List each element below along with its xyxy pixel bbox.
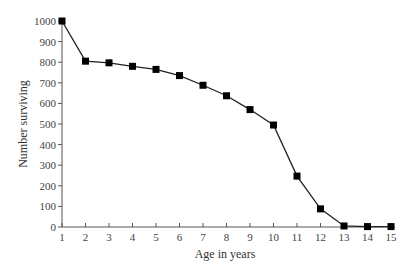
- y-tick-label: 1000: [34, 15, 57, 27]
- x-tick-label: 9: [247, 231, 253, 243]
- y-axis-label: Number surviving: [16, 80, 30, 168]
- y-tick-label: 200: [40, 180, 57, 192]
- data-point-marker: [317, 205, 324, 212]
- x-tick-label: 1: [59, 231, 65, 243]
- x-tick-label: 7: [200, 231, 206, 243]
- x-tick-label: 11: [292, 231, 303, 243]
- y-tick-label: 400: [40, 139, 57, 151]
- x-tick-label: 3: [106, 231, 112, 243]
- x-tick-label: 14: [362, 231, 374, 243]
- y-tick-label: 800: [40, 56, 57, 68]
- x-tick-label: 5: [153, 231, 159, 243]
- data-point-marker: [82, 58, 89, 65]
- data-point-marker: [364, 223, 371, 230]
- survivorship-line-chart: 01002003004005006007008009001000 1234567…: [0, 0, 407, 271]
- x-tick-label: 13: [339, 231, 351, 243]
- y-tick-label: 900: [40, 36, 57, 48]
- y-tick-label: 700: [40, 77, 57, 89]
- data-point-marker: [59, 18, 66, 25]
- data-point-marker: [129, 63, 136, 70]
- data-point-marker: [341, 222, 348, 229]
- x-tick-label: 12: [315, 231, 326, 243]
- data-point-marker: [270, 122, 277, 129]
- y-tick-label: 500: [40, 118, 57, 130]
- x-tick-label: 10: [268, 231, 280, 243]
- data-point-marker: [247, 106, 254, 113]
- x-tick-label: 4: [130, 231, 136, 243]
- x-axis-label: Age in years: [195, 247, 256, 261]
- y-tick-label: 600: [40, 97, 57, 109]
- data-point-marker: [176, 72, 183, 79]
- y-tick-label: 0: [51, 221, 57, 233]
- x-tick-label: 6: [177, 231, 183, 243]
- y-tick-label: 100: [40, 200, 57, 212]
- data-series-line: [59, 18, 395, 231]
- x-tick-label: 8: [224, 231, 230, 243]
- y-axis: 01002003004005006007008009001000: [34, 15, 62, 233]
- data-point-marker: [388, 223, 395, 230]
- x-tick-label: 2: [83, 231, 89, 243]
- series-line: [62, 21, 391, 227]
- data-point-marker: [106, 59, 113, 66]
- x-tick-label: 15: [386, 231, 398, 243]
- data-point-marker: [223, 92, 230, 99]
- data-point-marker: [200, 82, 207, 89]
- y-tick-label: 300: [40, 159, 57, 171]
- data-point-marker: [294, 173, 301, 180]
- data-point-marker: [153, 66, 160, 73]
